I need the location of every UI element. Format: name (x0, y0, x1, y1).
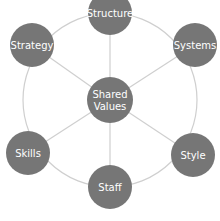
node-label: Staff (98, 182, 122, 193)
node-shared-values: SharedValues (87, 77, 133, 123)
node-label: Values (94, 101, 127, 112)
node-label: Structure (87, 8, 134, 19)
seven-s-diagram: StructureSystemsStyleStaffSkillsStrategy… (0, 0, 220, 221)
node-label: Shared (92, 89, 127, 100)
node-label: Systems (174, 40, 217, 51)
node-systems: Systems (173, 23, 217, 67)
node-staff: Staff (88, 165, 132, 209)
node-skills: Skills (6, 131, 50, 175)
node-label: Strategy (11, 40, 54, 51)
node-strategy: Strategy (10, 23, 54, 67)
node-label: Skills (15, 148, 41, 159)
node-style: Style (171, 133, 215, 177)
nodes: StructureSystemsStyleStaffSkillsStrategy… (6, 0, 217, 209)
node-label: Style (180, 150, 205, 161)
node-structure: Structure (87, 0, 134, 35)
